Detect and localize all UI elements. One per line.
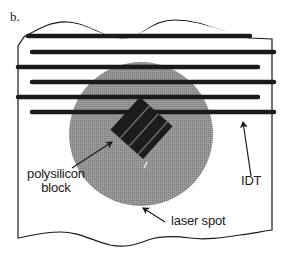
laser-spot-label: laser spot bbox=[171, 214, 225, 228]
polysilicon-block-label: polysilicon block bbox=[24, 167, 88, 195]
panel-label: b. bbox=[10, 9, 20, 25]
idt-label: IDT bbox=[241, 174, 261, 188]
polysilicon-label-line1: polysilicon bbox=[24, 167, 88, 181]
polysilicon-label-line2: block bbox=[24, 181, 88, 195]
diagram-canvas bbox=[0, 0, 283, 254]
idt-diagram: b. polysilicon block laser spot IDT bbox=[0, 0, 283, 254]
